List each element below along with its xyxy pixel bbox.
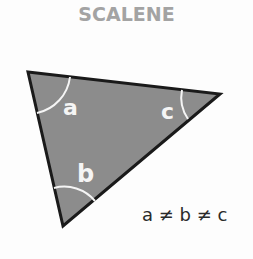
angle-label-c: c <box>161 99 174 124</box>
angle-label-b: b <box>77 160 94 188</box>
inequality-equation: a ≠ b ≠ c <box>142 204 227 225</box>
angle-label-a: a <box>63 95 78 120</box>
triangle-shape <box>28 72 220 226</box>
